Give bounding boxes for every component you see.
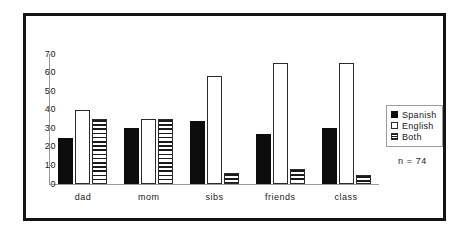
legend-item-english: English bbox=[391, 120, 437, 131]
legend-label-spanish: Spanish bbox=[402, 110, 437, 120]
bar-group bbox=[182, 54, 248, 184]
legend-swatch-english bbox=[391, 122, 398, 129]
x-axis-label-sibs: sibs bbox=[182, 192, 248, 202]
legend-swatch-spanish bbox=[391, 111, 398, 118]
x-axis-label-class: class bbox=[313, 192, 379, 202]
bar-friends-both bbox=[290, 169, 305, 184]
bar-group bbox=[313, 54, 379, 184]
bar-class-both bbox=[356, 175, 371, 184]
plot-area bbox=[50, 54, 379, 184]
x-axis-label-dad: dad bbox=[50, 192, 116, 202]
bar-sibs-english bbox=[207, 76, 222, 184]
x-axis-label-mom: mom bbox=[116, 192, 182, 202]
legend-swatch-both bbox=[391, 133, 398, 140]
x-axis-label-friends: friends bbox=[247, 192, 313, 202]
sample-size-annotation: n = 74 bbox=[398, 156, 427, 166]
bar-group bbox=[116, 54, 182, 184]
bar-class-spanish bbox=[322, 128, 337, 184]
bar-group bbox=[247, 54, 313, 184]
bar-mom-both bbox=[158, 119, 173, 184]
legend-item-spanish: Spanish bbox=[391, 109, 437, 120]
bar-mom-spanish bbox=[124, 128, 139, 184]
bar-friends-english bbox=[273, 63, 288, 184]
figure: 706050403020100 dadmomsibsfriendsclass S… bbox=[0, 0, 462, 235]
bar-friends-spanish bbox=[256, 134, 271, 184]
legend-item-both: Both bbox=[391, 131, 437, 142]
bar-group bbox=[50, 54, 116, 184]
bar-sibs-both bbox=[224, 173, 239, 184]
bar-mom-english bbox=[141, 119, 156, 184]
legend: Spanish English Both bbox=[386, 105, 443, 147]
legend-label-both: Both bbox=[402, 132, 422, 142]
bar-sibs-spanish bbox=[190, 121, 205, 184]
bar-dad-spanish bbox=[58, 138, 73, 184]
bar-class-english bbox=[339, 63, 354, 184]
y-axis-tick-mark bbox=[49, 184, 53, 185]
bar-dad-english bbox=[75, 110, 90, 184]
legend-label-english: English bbox=[402, 121, 434, 131]
bar-dad-both bbox=[92, 119, 107, 184]
x-axis-line bbox=[49, 184, 379, 185]
chart-frame: 706050403020100 dadmomsibsfriendsclass S… bbox=[23, 13, 446, 221]
plot-wrapper: 706050403020100 dadmomsibsfriendsclass S… bbox=[26, 16, 443, 218]
